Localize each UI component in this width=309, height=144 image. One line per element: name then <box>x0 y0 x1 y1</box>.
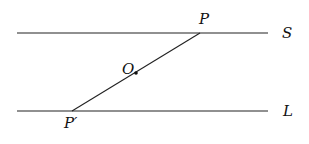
label-p: P <box>199 12 209 27</box>
label-o: O <box>122 62 134 77</box>
label-s: S <box>282 26 292 41</box>
diagram-canvas: P S O P′ L <box>0 0 309 144</box>
diagram-svg <box>0 0 309 144</box>
label-l: L <box>283 104 293 119</box>
point-o-dot <box>134 71 138 75</box>
label-p-prime: P′ <box>64 116 78 131</box>
